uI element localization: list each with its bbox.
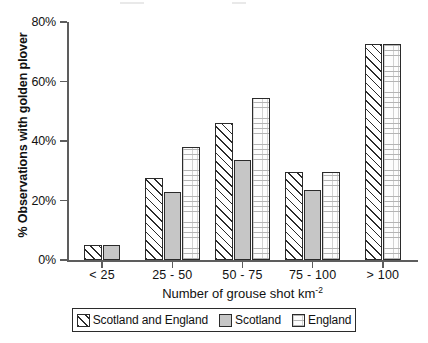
bar [215,123,233,260]
legend-swatch-icon [292,314,305,327]
bar [365,44,383,260]
legend-swatch-icon [77,314,90,327]
bar [103,245,121,260]
y-axis-tick [60,200,67,202]
legend-label: Scotland [235,313,281,327]
y-axis-tick [60,259,67,261]
legend-item: England [292,313,351,327]
x-axis-tick-label: > 100 [328,268,428,282]
legend-label: Scotland and England [93,313,208,327]
bar [322,172,340,260]
legend-swatch-icon [219,314,232,327]
bar [145,178,163,260]
x-axis-title-exponent: -2 [315,285,323,295]
bar [164,192,182,260]
x-axis-tick [382,261,384,268]
bar [304,190,322,260]
bar [84,245,102,260]
y-axis-tick-label: 0% [0,253,56,267]
legend-item: Scotland and England [77,313,208,327]
legend-item: Scotland [219,313,281,327]
y-axis-tick [60,140,67,142]
scan-artifact [232,2,246,4]
plot-area [67,22,418,260]
y-axis-tick-label: 60% [0,75,56,89]
y-axis-tick-label: 40% [0,134,56,148]
chart-legend: Scotland and EnglandScotlandEngland [72,308,356,332]
x-axis-title: Number of grouse shot km-2 [67,286,418,301]
legend-label: England [308,313,351,327]
scan-artifact [120,2,144,4]
y-axis-tick-label: 80% [0,15,56,29]
bar [285,172,303,260]
x-axis-tick [242,261,244,268]
x-axis-title-base: Number of grouse shot km [162,286,315,301]
x-axis-tick [172,261,174,268]
bar [182,147,200,260]
x-axis-tick [312,261,314,268]
bar [383,44,401,260]
chart-figure: % Observations with golden plover 0%20%4… [0,0,428,343]
bar [252,98,270,260]
bar [234,160,252,260]
y-axis-tick [60,81,67,83]
x-axis-tick [101,261,103,268]
y-axis-tick [60,21,67,23]
y-axis-tick-label: 20% [0,194,56,208]
